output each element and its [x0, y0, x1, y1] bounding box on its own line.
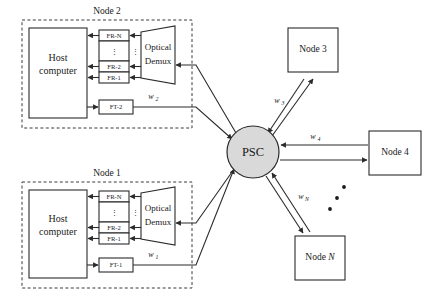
- node-2-receiver-fr-2-label: FR-2: [107, 63, 121, 70]
- node-1-title: Node 1: [93, 168, 121, 178]
- node-3-wavelength-label: w: [274, 96, 280, 105]
- node-1-demux-label-line2: Demux: [145, 217, 172, 227]
- node-4-wavelength-label: w: [310, 132, 316, 141]
- node-1-receiver-fr-n-label: FR-N: [106, 193, 121, 200]
- psc-hub: PSC: [227, 126, 279, 178]
- node-1-demux-link-dots: ⋮: [132, 209, 139, 217]
- node-2-wavelength-label: w: [148, 92, 154, 101]
- node-1-demux-label-line1: Optical: [145, 203, 172, 213]
- node-2-host-label-line1: Host: [49, 52, 68, 63]
- access-node-2: Node 2 Host computer FR-N ⋮ FR-2 FR-1 Op…: [22, 6, 192, 128]
- peer-node-n: Node N w N: [295, 192, 345, 280]
- network-diagram: Node 2 Host computer FR-N ⋮ FR-2 FR-1 Op…: [0, 0, 430, 293]
- link-node2-uplink-to-psc: [133, 107, 232, 139]
- node-n-label: Node N: [305, 252, 335, 262]
- node-1-host-label-line2: computer: [39, 226, 77, 237]
- node-n-wavelength-label: w: [298, 192, 304, 201]
- node-4-label: Node 4: [381, 147, 409, 157]
- node-n-label-suffix: N: [327, 252, 335, 262]
- node-2-demux-link-dots: ⋮: [132, 48, 139, 56]
- link-psc-downlink-to-node3: [272, 79, 313, 136]
- ellipsis-dot-1: [328, 207, 332, 211]
- node-1-transmitter-label: FT-1: [110, 261, 123, 268]
- node-1-wavelength-subscript: 1: [156, 254, 159, 260]
- node-2-receiver-fr-1-label: FR-1: [107, 74, 121, 81]
- node-4-wavelength-subscript: 4: [318, 136, 321, 142]
- ellipsis-dot-3: [342, 185, 346, 189]
- node-2-optical-demux: [141, 26, 175, 84]
- node-2-host-label-line2: computer: [39, 65, 77, 76]
- link-psc-downlink-to-node2: [176, 65, 236, 133]
- psc-label: PSC: [242, 145, 264, 159]
- link-psc-downlink-to-nodeN: [266, 176, 303, 233]
- node-2-receiver-gap-dots: ⋮: [111, 48, 118, 56]
- node-n-wavelength-subscript: N: [304, 196, 310, 202]
- node-1-receiver-fr-1-label: FR-1: [107, 235, 121, 242]
- node-n-label-prefix: Node: [305, 252, 328, 262]
- node-1-host-label-line1: Host: [49, 213, 68, 224]
- node-3-wavelength-subscript: 3: [281, 100, 285, 106]
- node-1-receiver-gap-dots: ⋮: [111, 209, 118, 217]
- link-node3-uplink-to-psc: [268, 79, 304, 133]
- link-nodeN-uplink-to-psc: [272, 173, 310, 232]
- peer-node-4: Node 4 w 4: [310, 131, 421, 175]
- node-1-optical-demux: [141, 187, 175, 245]
- peer-nodes-ellipsis: [328, 185, 346, 211]
- ellipsis-dot-2: [335, 196, 339, 200]
- node-1-wavelength-label: w: [148, 250, 154, 259]
- node-2-transmitter-label: FT-2: [110, 103, 123, 110]
- link-psc-downlink-to-node1: [176, 172, 232, 223]
- node-2-wavelength-subscript: 2: [156, 96, 159, 102]
- node-2-title: Node 2: [93, 6, 121, 16]
- diagram-canvas: Node 2 Host computer FR-N ⋮ FR-2 FR-1 Op…: [0, 0, 430, 293]
- access-node-1: Node 1 Host computer FR-N ⋮ FR-2 FR-1 Op…: [22, 168, 192, 288]
- node-2-demux-label-line1: Optical: [145, 42, 172, 52]
- node-2-demux-label-line2: Demux: [145, 56, 172, 66]
- node-2-receiver-fr-n-label: FR-N: [106, 32, 121, 39]
- node-1-receiver-fr-2-label: FR-2: [107, 224, 121, 231]
- node-3-label: Node 3: [299, 44, 327, 54]
- peer-node-3: Node 3 w 3: [274, 28, 338, 106]
